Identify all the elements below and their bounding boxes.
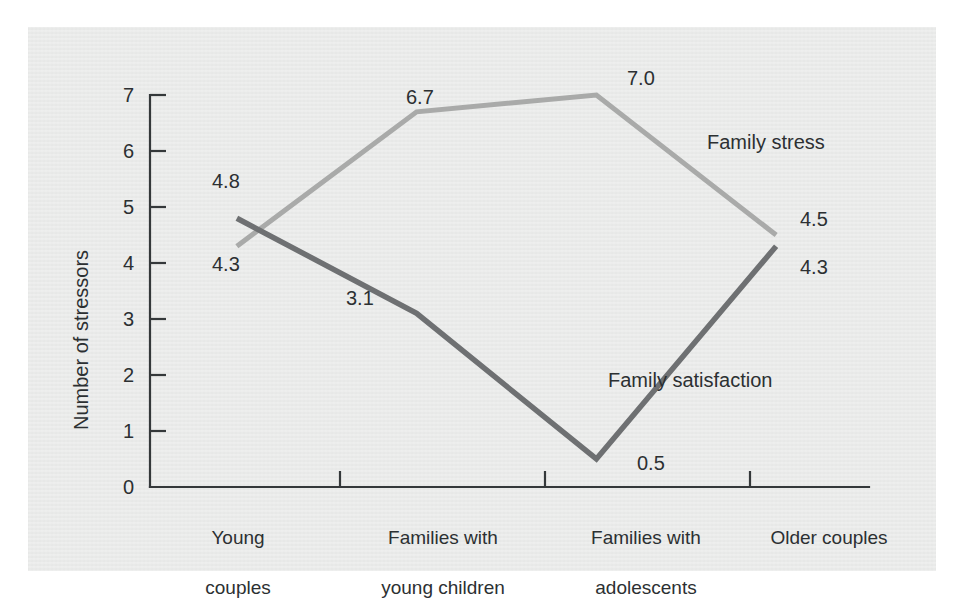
x-category-label-4-line1: Older couples (744, 525, 914, 550)
value-label-satisfaction-4: 4.3 (800, 256, 828, 279)
y-tick-label-2: 2 (108, 364, 134, 387)
x-category-label-3-line2: adolescents (556, 575, 736, 600)
y-tick-label-3: 3 (108, 308, 134, 331)
x-category-label-2-line1: Families with (348, 525, 538, 550)
y-axis-title-text: Number of stressors (70, 250, 93, 430)
y-tick-label-1: 1 (108, 420, 134, 443)
value-label-satisfaction-3: 0.5 (637, 452, 665, 475)
chart-panel-background (28, 27, 936, 571)
value-label-stress-1: 4.3 (212, 253, 240, 276)
y-tick-label-4: 4 (108, 252, 134, 275)
value-label-satisfaction-2: 3.1 (346, 287, 374, 310)
x-category-label-1-line2: couples (178, 575, 298, 600)
y-tick-label-5: 5 (108, 196, 134, 219)
x-category-label-2: Families with young children (348, 500, 538, 607)
x-category-label-3-line1: Families with (556, 525, 736, 550)
x-category-label-1: Young couples (178, 500, 298, 607)
series-label-family-stress: Family stress (707, 131, 825, 154)
value-label-satisfaction-1: 4.8 (212, 170, 240, 193)
x-category-label-1-line1: Young (178, 525, 298, 550)
y-tick-label-6: 6 (108, 140, 134, 163)
series-label-family-satisfaction: Family satisfaction (608, 369, 773, 392)
y-tick-label-7: 7 (108, 84, 134, 107)
x-category-label-3: Families with adolescents (556, 500, 736, 607)
value-label-stress-3: 7.0 (627, 67, 655, 90)
y-axis-title: Number of stressors (48, 170, 72, 430)
x-category-label-4: Older couples (744, 500, 914, 575)
value-label-stress-2: 6.7 (406, 86, 434, 109)
x-category-label-2-line2: young children (348, 575, 538, 600)
value-label-stress-4: 4.5 (800, 208, 828, 231)
figure-root: Number of stressors 7 6 5 4 3 2 1 0 Youn… (0, 0, 976, 607)
y-tick-label-0: 0 (108, 476, 134, 499)
